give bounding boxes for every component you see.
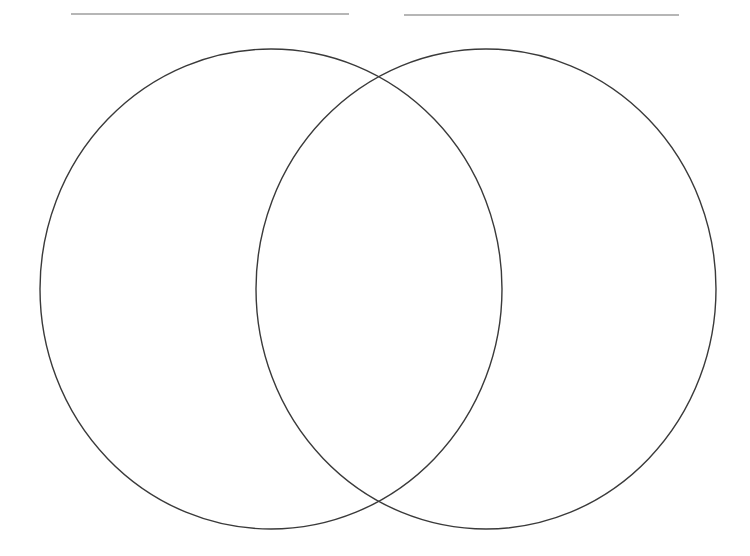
right-circle [256,49,716,529]
left-circle [40,49,502,529]
venn-diagram [0,0,750,556]
